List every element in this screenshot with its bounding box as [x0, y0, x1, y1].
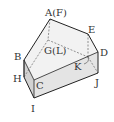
label-h: H — [13, 73, 22, 84]
label-g: G(L) — [44, 45, 67, 56]
label-e: E — [88, 24, 95, 35]
label-i: I — [31, 103, 35, 114]
label-d: D — [100, 47, 108, 58]
label-j: J — [94, 77, 99, 88]
label-apex: A(F) — [44, 7, 67, 18]
label-c: C — [36, 80, 44, 91]
solid-diagram: A(F) E D J B H C I G(L) K — [0, 0, 114, 122]
label-k: K — [74, 61, 82, 72]
label-b: B — [14, 51, 21, 62]
